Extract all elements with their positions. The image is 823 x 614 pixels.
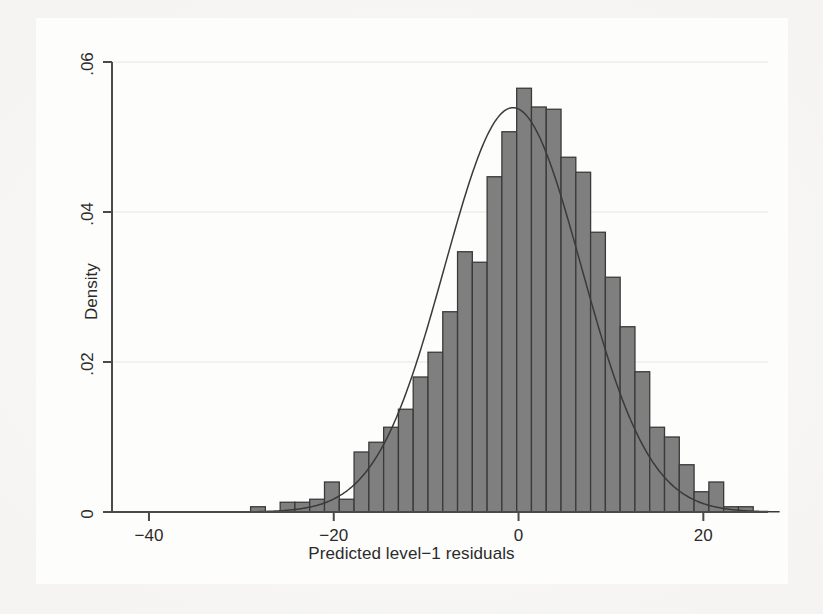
histogram-bar <box>650 427 665 512</box>
x-tick-label: −20 <box>304 526 364 546</box>
histogram-bar <box>694 492 709 512</box>
histogram-bar <box>517 88 532 512</box>
figure-page: Predicted level−1 residuals Density −40−… <box>0 0 823 614</box>
histogram-bar <box>443 312 458 512</box>
x-axis-title: Predicted level−1 residuals <box>0 544 823 564</box>
histogram-bar <box>620 327 635 512</box>
histogram-bar <box>502 132 517 512</box>
y-tick-label: .02 <box>78 352 98 376</box>
histogram-chart <box>0 0 823 614</box>
histogram-bar <box>665 437 680 512</box>
histogram-bars <box>251 88 754 512</box>
histogram-bar <box>398 409 413 512</box>
histogram-bar <box>369 442 384 512</box>
x-tick-label: 20 <box>673 526 733 546</box>
histogram-bar <box>576 172 591 512</box>
histogram-bar <box>413 377 428 512</box>
histogram-bar <box>546 109 561 512</box>
y-axis-title: Density <box>82 263 102 320</box>
histogram-bar <box>472 262 487 512</box>
histogram-bar <box>428 352 443 512</box>
y-tick-label: .04 <box>78 202 98 226</box>
x-tick-label: −40 <box>119 526 179 546</box>
x-tick-label: 0 <box>489 526 549 546</box>
histogram-bar <box>531 107 546 512</box>
histogram-bar <box>561 157 576 512</box>
histogram-bar <box>635 372 650 512</box>
y-tick-label: .06 <box>78 52 98 76</box>
histogram-bar <box>458 252 473 512</box>
gridlines <box>112 62 768 362</box>
histogram-bar <box>605 277 620 512</box>
histogram-bar <box>591 232 606 512</box>
y-tick-label: 0 <box>78 509 98 518</box>
histogram-bar <box>339 499 354 512</box>
histogram-bar <box>487 177 502 512</box>
histogram-bar <box>679 465 694 512</box>
